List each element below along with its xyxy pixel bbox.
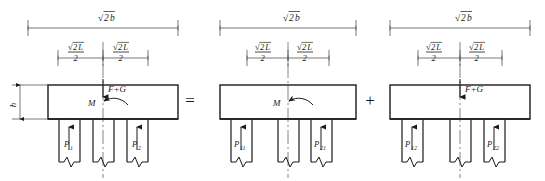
symbol-b: b xyxy=(295,13,300,23)
pile-left: P 1 xyxy=(59,119,80,167)
pile-left: P 11 xyxy=(231,119,252,167)
pile-right: P 21 xyxy=(311,119,332,167)
break-symbol-icon xyxy=(127,157,148,167)
pile-reaction-label: P xyxy=(131,139,137,149)
figure-canvas: √ 2 b √ 2 L 2 √ 2 L 2 xyxy=(0,0,545,181)
symbol-L: L xyxy=(264,42,270,52)
pile-group: P 1 P 2 xyxy=(48,119,178,167)
half-dimension-label-left: √ 2 L 2 xyxy=(426,42,442,63)
symbol-L: L xyxy=(306,42,312,52)
pile-left: P 12 xyxy=(402,119,423,167)
overall-dimension-label: √ 2 b xyxy=(98,12,115,24)
half-dimension-label-left: √ 2 L 2 xyxy=(255,42,271,63)
break-symbol-icon xyxy=(278,157,299,167)
equals-operator: = xyxy=(185,91,195,110)
radicand-two: 2 xyxy=(118,42,123,52)
height-label: h xyxy=(8,102,18,107)
half-dimension-label-right: √ 2 L 2 xyxy=(113,42,129,63)
pile-center xyxy=(450,119,471,167)
pile-reaction-label: P xyxy=(63,139,69,149)
panel-axial: √ 2 b √ 2 L 2 √ 2 L 2 xyxy=(390,12,530,179)
height-dimension: h xyxy=(8,85,48,119)
moment-label: M xyxy=(87,98,96,108)
axial-load-arrow: F+G xyxy=(103,79,127,97)
break-symbol-icon xyxy=(450,157,471,167)
half-dimension-label-right: √ 2 L 2 xyxy=(469,42,485,63)
denominator-two: 2 xyxy=(74,53,79,63)
radicand-two: 2 xyxy=(302,42,307,52)
radicand-two: 2 xyxy=(260,42,265,52)
pile-reaction-subscript: 22 xyxy=(493,145,499,151)
radicand-two: 2 xyxy=(73,42,78,52)
radicand-two: 2 xyxy=(289,13,294,23)
moment-label: M xyxy=(272,98,281,108)
break-symbol-icon xyxy=(231,157,252,167)
half-dimension-label-right: √ 2 L 2 xyxy=(297,42,313,63)
pile-right: P 22 xyxy=(484,119,505,167)
overall-dimension-label: √ 2 b xyxy=(283,12,300,24)
pile-reaction-label: P xyxy=(486,139,492,149)
plus-operator: + xyxy=(365,91,375,110)
pile-reaction-label: P xyxy=(404,139,410,149)
radicand-two: 2 xyxy=(461,13,466,23)
denominator-two: 2 xyxy=(261,53,266,63)
panel-combined: √ 2 b √ 2 L 2 √ 2 L 2 xyxy=(8,12,178,179)
radicand-two: 2 xyxy=(431,42,436,52)
axial-load-arrow: F+G xyxy=(460,79,484,97)
pile-reaction-subscript: 12 xyxy=(411,145,417,151)
denominator-two: 2 xyxy=(432,53,437,63)
denominator-two: 2 xyxy=(475,53,480,63)
pile-reaction-subscript: 11 xyxy=(240,145,246,151)
break-symbol-icon xyxy=(59,157,80,167)
denominator-two: 2 xyxy=(303,53,308,63)
break-symbol-icon xyxy=(484,157,505,167)
pile-reaction-label: P xyxy=(233,139,239,149)
break-symbol-icon xyxy=(93,157,114,167)
symbol-b: b xyxy=(110,13,115,23)
denominator-two: 2 xyxy=(119,53,124,63)
pile-center xyxy=(278,119,299,167)
pile-right: P 2 xyxy=(127,119,148,167)
pile-center xyxy=(93,119,114,167)
half-dimension-label-left: √ 2 L 2 xyxy=(68,42,84,63)
symbol-L: L xyxy=(122,42,128,52)
symbol-L: L xyxy=(77,42,83,52)
overall-dimension-label: √ 2 b xyxy=(455,12,472,24)
load-decomposition-diagram: √ 2 b √ 2 L 2 √ 2 L 2 xyxy=(0,0,545,181)
pile-reaction-subscript: 21 xyxy=(320,145,326,151)
radicand-two: 2 xyxy=(474,42,479,52)
symbol-L: L xyxy=(478,42,484,52)
break-symbol-icon xyxy=(402,157,423,167)
moment-load-symbol: M xyxy=(87,98,128,108)
pile-reaction-label: P xyxy=(313,139,319,149)
axial-load-label: F+G xyxy=(107,84,127,94)
moment-load-symbol: M xyxy=(272,98,313,108)
panel-moment: √ 2 b √ 2 L 2 √ 2 L 2 xyxy=(220,12,356,179)
symbol-b: b xyxy=(467,13,472,23)
break-symbol-icon xyxy=(311,157,332,167)
radicand-two: 2 xyxy=(104,13,109,23)
pile-reaction-subscript: 2 xyxy=(138,145,141,151)
symbol-L: L xyxy=(435,42,441,52)
axial-load-label: F+G xyxy=(464,84,484,94)
pile-reaction-subscript: 1 xyxy=(70,145,73,151)
